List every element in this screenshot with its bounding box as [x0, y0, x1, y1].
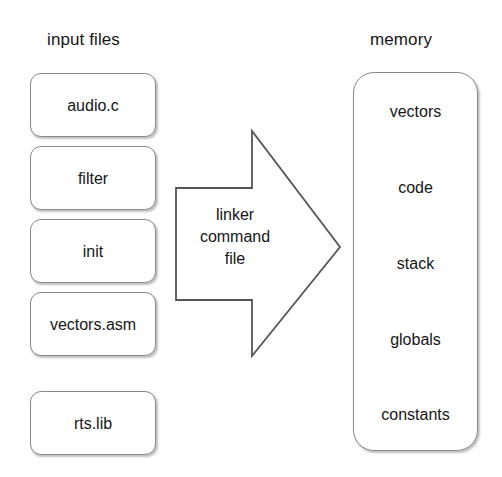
input-file-label: audio.c [61, 96, 125, 115]
arrow-label-line-3: file [176, 248, 294, 270]
input-file-box-init[interactable]: init [30, 219, 156, 283]
diagram-canvas: input files memory audio.c filter init v… [0, 0, 502, 477]
memory-section-globals: globals [354, 330, 477, 349]
input-file-label: filter [72, 169, 114, 188]
input-file-box-vectors-asm[interactable]: vectors.asm [30, 292, 156, 356]
linker-command-file-arrow[interactable]: linker command file [170, 122, 348, 366]
arrow-label-line-1: linker [176, 204, 294, 226]
memory-section-constants: constants [354, 405, 477, 424]
arrow-label-line-2: command [176, 226, 294, 248]
memory-section-stack: stack [354, 254, 477, 273]
memory-block[interactable]: vectors code stack globals constants [353, 72, 478, 451]
input-file-label: vectors.asm [44, 315, 142, 334]
input-file-label: init [77, 242, 109, 261]
input-file-label: rts.lib [68, 414, 118, 433]
memory-section-vectors: vectors [354, 102, 477, 121]
input-files-heading: input files [47, 30, 120, 50]
memory-heading: memory [370, 30, 432, 50]
memory-section-code: code [354, 178, 477, 197]
arrow-label: linker command file [176, 204, 294, 270]
input-file-box-audio-c[interactable]: audio.c [30, 73, 156, 137]
input-file-box-rts-lib[interactable]: rts.lib [30, 391, 156, 455]
input-file-box-filter[interactable]: filter [30, 146, 156, 210]
